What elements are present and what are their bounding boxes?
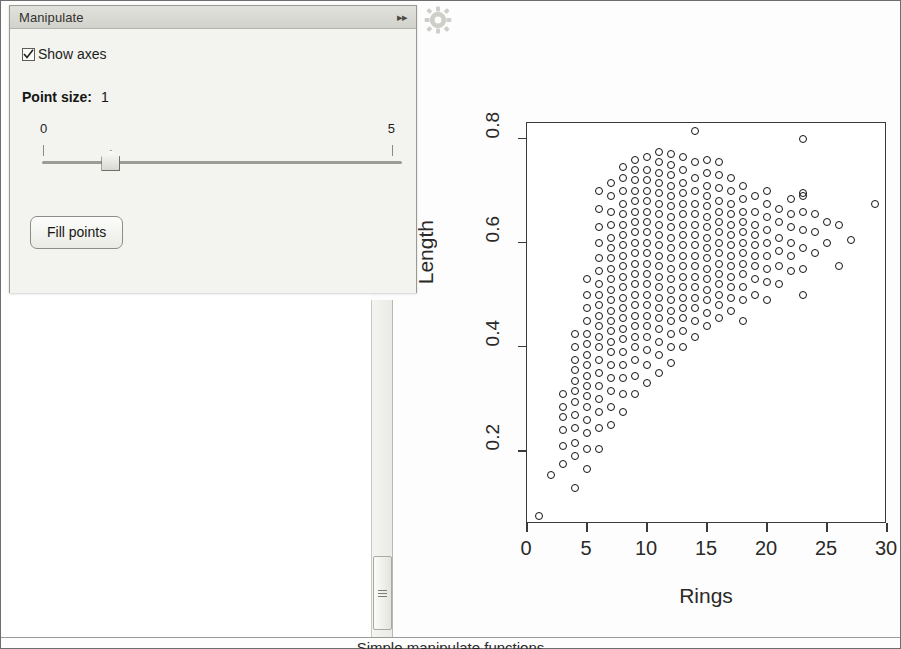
data-point: [691, 221, 699, 229]
data-point: [667, 307, 675, 315]
vertical-scrollbar[interactable]: [371, 300, 393, 638]
data-point: [619, 200, 627, 208]
data-point: [607, 254, 615, 262]
data-point: [703, 182, 711, 190]
show-axes-row[interactable]: Show axes: [22, 46, 106, 62]
data-point: [727, 262, 735, 270]
data-point: [679, 241, 687, 249]
point-size-label: Point size:: [22, 89, 92, 105]
data-point: [583, 304, 591, 312]
data-point: [775, 280, 783, 288]
data-point: [727, 252, 735, 260]
data-point: [583, 465, 591, 473]
data-point: [607, 361, 615, 369]
data-point: [571, 411, 579, 419]
show-axes-checkbox[interactable]: [22, 48, 35, 61]
data-point: [619, 163, 627, 171]
data-point: [871, 200, 879, 208]
data-point: [619, 294, 627, 302]
data-point: [619, 262, 627, 270]
data-point: [835, 262, 843, 270]
scrollbar-thumb[interactable]: [373, 556, 392, 630]
data-point: [619, 187, 627, 195]
data-point: [799, 135, 807, 143]
data-point: [739, 195, 747, 203]
y-tick-label: 0.4: [482, 320, 504, 346]
data-point: [763, 252, 771, 260]
data-point: [571, 387, 579, 395]
data-point: [703, 265, 711, 273]
y-tick-label: 0.6: [482, 216, 504, 242]
data-point: [715, 260, 723, 268]
point-size-slider[interactable]: 0 5: [22, 121, 404, 177]
data-point: [763, 278, 771, 286]
data-point: [571, 398, 579, 406]
data-point: [667, 202, 675, 210]
data-point: [583, 275, 591, 283]
data-point: [787, 195, 795, 203]
data-point: [571, 439, 579, 447]
data-point: [535, 512, 543, 520]
data-point: [799, 244, 807, 252]
data-point: [655, 179, 663, 187]
panel-title-bar[interactable]: Manipulate ▸▸: [10, 6, 416, 29]
data-point: [811, 210, 819, 218]
data-point: [739, 296, 747, 304]
data-point: [727, 221, 735, 229]
data-point: [691, 200, 699, 208]
data-point: [583, 416, 591, 424]
data-point: [667, 265, 675, 273]
data-point: [619, 325, 627, 333]
data-point: [715, 249, 723, 257]
data-point: [643, 208, 651, 216]
data-point: [715, 280, 723, 288]
data-point: [667, 213, 675, 221]
data-point: [727, 283, 735, 291]
data-point: [727, 174, 735, 182]
data-point: [679, 179, 687, 187]
chevron-double-right-icon[interactable]: ▸▸: [397, 12, 407, 23]
data-point: [619, 252, 627, 260]
data-point: [715, 228, 723, 236]
data-point: [727, 210, 735, 218]
data-point: [619, 390, 627, 398]
data-point: [691, 158, 699, 166]
fill-points-button[interactable]: Fill points: [30, 216, 123, 249]
data-point: [631, 301, 639, 309]
data-point: [691, 333, 699, 341]
data-point: [655, 169, 663, 177]
data-point: [619, 231, 627, 239]
data-point: [715, 301, 723, 309]
data-point: [607, 192, 615, 200]
data-point: [571, 366, 579, 374]
data-point: [607, 307, 615, 315]
data-point: [655, 148, 663, 156]
data-point: [595, 408, 603, 416]
data-point: [703, 202, 711, 210]
y-tick: [518, 138, 526, 140]
data-point: [583, 330, 591, 338]
data-point: [703, 244, 711, 252]
data-point: [739, 218, 747, 226]
data-point: [835, 221, 843, 229]
data-point: [595, 291, 603, 299]
data-point: [679, 343, 687, 351]
data-point: [715, 218, 723, 226]
slider-track[interactable]: [42, 161, 402, 164]
data-point: [679, 200, 687, 208]
data-point: [595, 267, 603, 275]
data-point: [679, 231, 687, 239]
data-point: [643, 166, 651, 174]
data-point: [727, 307, 735, 315]
data-point: [691, 252, 699, 260]
data-point: [607, 317, 615, 325]
data-point: [643, 187, 651, 195]
x-axis-title: Rings: [526, 584, 886, 608]
data-point: [655, 210, 663, 218]
data-point: [739, 228, 747, 236]
data-point: [691, 210, 699, 218]
gear-icon[interactable]: [424, 6, 452, 34]
data-point: [679, 210, 687, 218]
data-point: [667, 254, 675, 262]
slider-thumb[interactable]: [101, 150, 120, 171]
